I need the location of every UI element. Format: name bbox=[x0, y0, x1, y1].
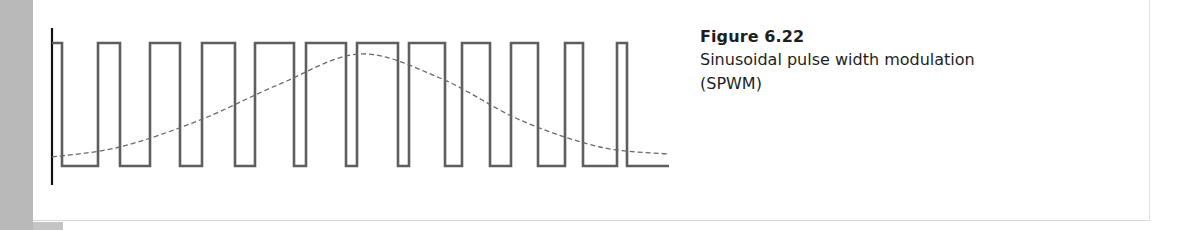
sine-reference-wave bbox=[52, 54, 668, 157]
figure-caption: Figure 6.22 Sinusoidal pulse width modul… bbox=[700, 25, 1040, 96]
figure-number: Figure 6.22 bbox=[700, 25, 1040, 48]
pwm-pulse-train bbox=[52, 43, 669, 166]
figure-title: Sinusoidal pulse width modulation (SPWM) bbox=[700, 48, 1040, 96]
spwm-diagram bbox=[0, 0, 700, 230]
